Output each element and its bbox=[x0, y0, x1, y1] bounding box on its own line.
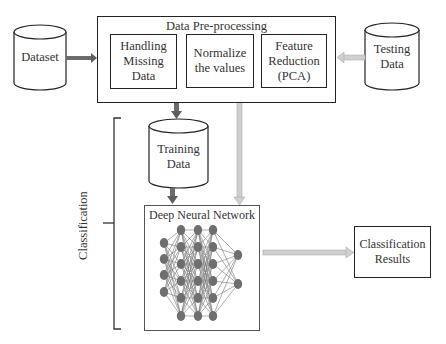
classification-results-box: Classification Results bbox=[354, 226, 431, 278]
arrow-testing-to-preprocessing bbox=[337, 52, 365, 63]
classification-bracket bbox=[103, 118, 121, 329]
testing-data-label: Testing Data bbox=[365, 42, 419, 72]
arrow-preprocessing-to-training bbox=[171, 102, 182, 119]
step-normalize-values: Normalize the values bbox=[186, 34, 254, 88]
dnn-box bbox=[144, 205, 260, 331]
arrow-dnn-to-results bbox=[263, 247, 354, 258]
classification-group-label: Classification bbox=[76, 176, 91, 276]
training-data-label: Training Data bbox=[149, 142, 208, 172]
preprocessing-title: Data Pre-processing bbox=[97, 19, 336, 34]
step-feature-reduction-pca: Feature Reduction (PCA) bbox=[261, 34, 327, 88]
arrow-preprocessing-to-dnn bbox=[234, 102, 245, 205]
arrow-training-to-dnn bbox=[167, 188, 178, 204]
step-handling-missing-data: Handling Missing Data bbox=[110, 34, 177, 89]
arrow-dataset-to-preprocessing bbox=[66, 53, 97, 63]
dataset-label: Dataset bbox=[14, 50, 66, 65]
dnn-title: Deep Neural Network bbox=[144, 208, 260, 223]
